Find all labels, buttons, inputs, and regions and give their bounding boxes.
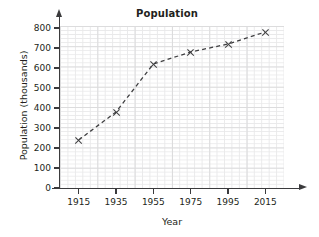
data-point-marker [74, 136, 83, 145]
x-axis-tick [190, 188, 191, 194]
y-axis-tick [54, 87, 60, 88]
x-axis-tick [78, 188, 79, 194]
x-axis-tick-label: 2015 [246, 198, 284, 207]
x-axis-line [52, 188, 300, 189]
x-axis-tick-label: 1995 [209, 198, 247, 207]
x-axis-tick-label: 1955 [134, 198, 172, 207]
major-gridlines [60, 26, 284, 188]
x-axis-tick-label: 1935 [97, 198, 135, 207]
data-point-marker [186, 48, 195, 57]
x-axis-tick [265, 188, 266, 194]
y-axis-line [59, 16, 60, 188]
y-axis-title: Population (thousands) [18, 21, 29, 191]
y-axis-tick [54, 47, 60, 48]
y-axis-arrow-icon [56, 9, 62, 17]
x-axis-arrow-icon [299, 184, 307, 190]
population-line-chart: Population 0100200300400500600700800 191… [0, 0, 319, 237]
chart-title: Population [50, 8, 284, 19]
x-axis-tick-label: 1915 [60, 198, 98, 207]
x-axis-tick-label: 1975 [172, 198, 210, 207]
data-point-marker [149, 60, 158, 69]
y-axis-tick [54, 107, 60, 108]
x-axis-tick [115, 188, 116, 194]
x-axis-tick [227, 188, 228, 194]
plot-area [60, 26, 284, 188]
data-point-marker [112, 108, 121, 117]
y-axis-tick [54, 127, 60, 128]
x-axis-tick [153, 188, 154, 194]
y-axis-tick [54, 187, 60, 188]
y-axis-tick [54, 67, 60, 68]
y-axis-tick [54, 27, 60, 28]
y-axis-tick [54, 167, 60, 168]
data-point-marker [224, 40, 233, 49]
x-axis-title: Year [60, 216, 284, 227]
data-point-marker [261, 28, 270, 37]
y-axis-tick [54, 147, 60, 148]
